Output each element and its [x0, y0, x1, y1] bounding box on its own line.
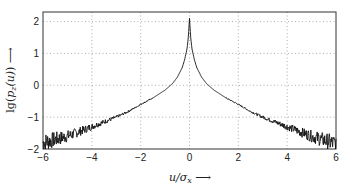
chart: −6−4−20246 −2−1012 u/σx ⟶ lg(pz(u)) ⟶	[0, 0, 352, 188]
svg-text:−2: −2	[28, 144, 40, 155]
svg-text:6: 6	[333, 152, 339, 163]
svg-text:−1: −1	[28, 112, 40, 123]
svg-text:2: 2	[236, 152, 242, 163]
data-curve	[43, 18, 336, 149]
svg-text:0: 0	[187, 152, 193, 163]
svg-text:−4: −4	[86, 152, 98, 163]
x-tick-labels: −6−4−20246	[37, 152, 339, 163]
svg-text:4: 4	[284, 152, 290, 163]
svg-text:2: 2	[33, 16, 39, 27]
y-axis-label: lg(pz(u)) ⟶	[4, 47, 18, 113]
svg-text:0: 0	[33, 80, 39, 91]
svg-text:−2: −2	[135, 152, 147, 163]
svg-text:−6: −6	[37, 152, 49, 163]
svg-text:1: 1	[33, 48, 39, 59]
y-tick-labels: −2−1012	[28, 16, 40, 154]
x-axis-label: u/σx ⟶	[169, 171, 211, 185]
